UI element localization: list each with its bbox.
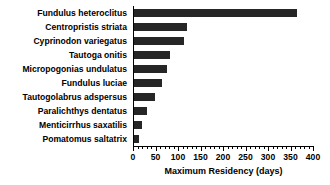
x-axis-minor-tick	[169, 146, 170, 149]
x-axis-minor-tick	[214, 146, 215, 149]
y-axis-line	[133, 6, 134, 146]
x-axis-minor-tick	[165, 146, 166, 149]
x-axis-minor-tick	[174, 146, 175, 149]
x-axis-major-tick	[178, 146, 179, 151]
x-axis-tick-label: 150	[193, 152, 207, 162]
x-axis-tick-label: 50	[151, 152, 161, 162]
category-label: Tautogolabrus adspersus	[23, 92, 127, 102]
plot-area	[133, 6, 313, 146]
x-axis-tick-label: 0	[131, 152, 136, 162]
x-axis-minor-tick	[210, 146, 211, 149]
bar-fill	[133, 51, 170, 59]
category-label: Menticirrhus saxatilis	[39, 120, 127, 130]
x-axis-major-tick	[291, 146, 292, 151]
bar	[133, 23, 187, 31]
x-axis-minor-tick	[138, 146, 139, 149]
x-axis-tick-label: 300	[261, 152, 275, 162]
bar-fill	[133, 79, 162, 87]
x-axis-major-tick	[156, 146, 157, 151]
x-axis-minor-tick	[255, 146, 256, 149]
x-axis-minor-tick	[219, 146, 220, 149]
x-axis-minor-tick	[147, 146, 148, 149]
x-axis-tick-label: 100	[171, 152, 185, 162]
x-axis-major-tick	[201, 146, 202, 151]
bar	[133, 93, 155, 101]
x-axis-minor-tick	[232, 146, 233, 149]
x-axis-major-tick	[313, 146, 314, 151]
bar-fill	[133, 65, 167, 73]
x-axis-minor-tick	[309, 146, 310, 149]
x-axis-tick-label: 250	[238, 152, 252, 162]
x-axis-minor-tick	[183, 146, 184, 149]
x-axis-minor-tick	[192, 146, 193, 149]
x-axis-minor-tick	[264, 146, 265, 149]
bar	[133, 37, 184, 45]
category-label: Fundulus luciae	[62, 78, 127, 88]
x-axis-minor-tick	[241, 146, 242, 149]
bar	[133, 79, 162, 87]
x-axis-minor-tick	[196, 146, 197, 149]
x-axis-major-tick	[268, 146, 269, 151]
x-axis-title: Maximum Residency (days)	[133, 166, 314, 176]
x-axis-tick-label: 200	[216, 152, 230, 162]
x-axis-minor-tick	[295, 146, 296, 149]
bar-fill	[133, 9, 297, 17]
category-label: Centropristis striata	[45, 22, 127, 32]
bar	[133, 65, 167, 73]
x-axis-minor-tick	[205, 146, 206, 149]
x-axis-minor-tick	[187, 146, 188, 149]
bar-fill	[133, 37, 184, 45]
bar-chart: Fundulus heteroclitusCentropristis stria…	[0, 0, 330, 185]
bar-fill	[133, 23, 187, 31]
x-axis-major-tick	[133, 146, 134, 151]
x-axis-minor-tick	[273, 146, 274, 149]
category-label-column: Fundulus heteroclitusCentropristis stria…	[0, 6, 130, 146]
x-axis-minor-tick	[250, 146, 251, 149]
x-axis-minor-tick	[151, 146, 152, 149]
x-axis-minor-tick	[286, 146, 287, 149]
category-label: Micropogonias undulatus	[22, 64, 127, 74]
bar	[133, 51, 170, 59]
bar-fill	[133, 107, 147, 115]
x-axis-minor-tick	[277, 146, 278, 149]
x-axis-minor-tick	[300, 146, 301, 149]
x-axis-tick-label: 350	[283, 152, 297, 162]
bar	[133, 107, 147, 115]
x-axis-minor-tick	[259, 146, 260, 149]
x-axis-tick-label: 400	[306, 152, 320, 162]
x-axis-major-tick	[223, 146, 224, 151]
bar-fill	[133, 93, 155, 101]
bar	[133, 9, 297, 17]
x-axis-minor-tick	[142, 146, 143, 149]
x-axis-minor-tick	[237, 146, 238, 149]
x-axis-minor-tick	[160, 146, 161, 149]
x-axis-minor-tick	[304, 146, 305, 149]
category-label: Pomatomus saltatrix	[42, 134, 127, 144]
x-axis-minor-tick	[282, 146, 283, 149]
x-axis-major-tick	[246, 146, 247, 151]
category-label: Fundulus heteroclitus	[37, 8, 127, 18]
x-axis-minor-tick	[228, 146, 229, 149]
category-label: Cyprinodon variegatus	[33, 36, 127, 46]
category-label: Paralichthys dentatus	[38, 106, 127, 116]
category-label: Tautoga onitis	[69, 50, 127, 60]
